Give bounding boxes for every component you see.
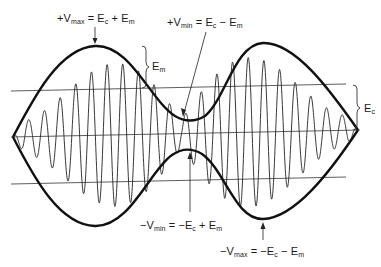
em-label: Em <box>152 61 165 73</box>
vmin-pos-arrow <box>181 32 206 117</box>
ec-label: Ec <box>364 103 375 115</box>
carrier-wave <box>13 58 358 207</box>
vmax-positive-label: +Vmax = Ec + Em <box>57 13 135 25</box>
lower-carrier-level-line <box>11 177 346 184</box>
vmin-positive-label: +Vmin = Ec − Em <box>167 17 243 29</box>
vmax-neg-arrow <box>261 222 266 240</box>
vmax-pos-arrow <box>93 27 98 44</box>
vmin-negative-label: −Vmin = −Ec + Em <box>140 220 222 232</box>
vmax-negative-label: −Vmax = −Ec − Em <box>220 246 304 258</box>
vmin-neg-arrow <box>188 152 193 212</box>
